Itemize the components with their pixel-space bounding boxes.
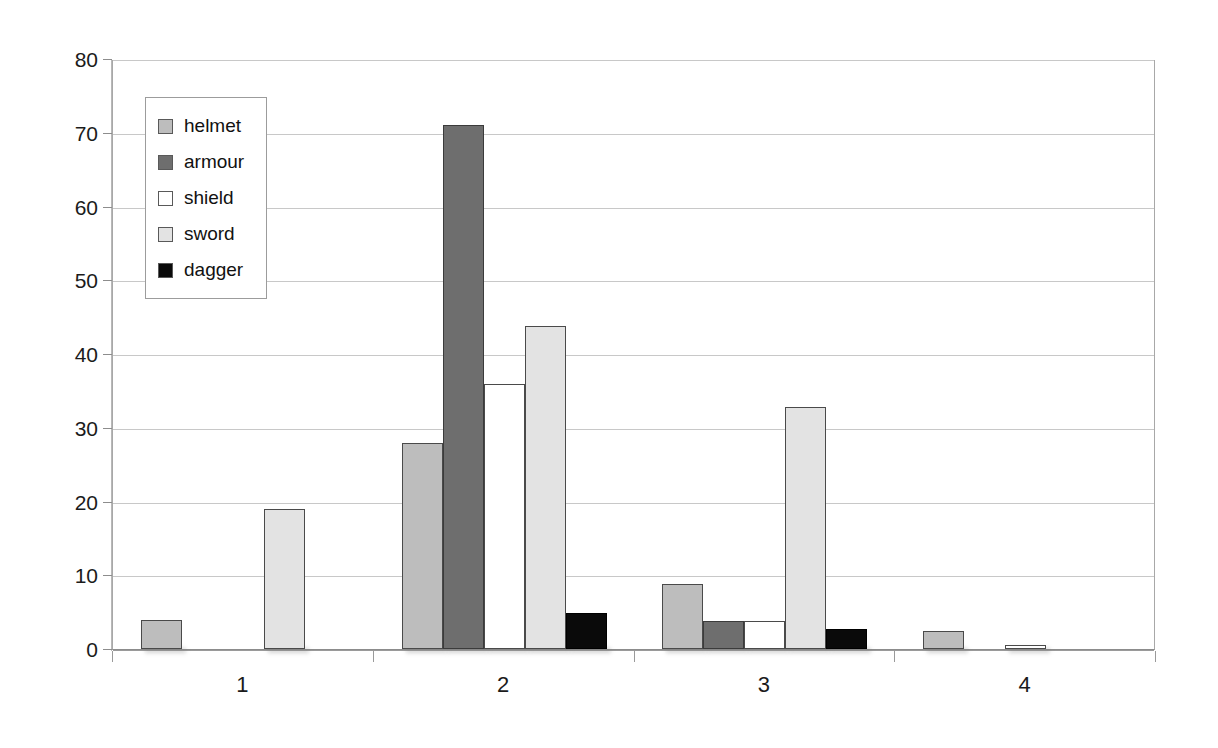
bar-shield-group-4[interactable] [1005, 645, 1046, 649]
x-tick-label-1: 1 [182, 672, 302, 698]
legend-item-sword[interactable]: sword [146, 216, 266, 252]
x-tick-mark-1 [373, 651, 374, 662]
legend-swatch-armour-icon [158, 155, 173, 170]
gridline-60 [113, 208, 1154, 209]
x-tick-label-2: 2 [443, 672, 563, 698]
gridline-50 [113, 281, 1154, 282]
y-tick-label-30: 30 [52, 418, 98, 439]
bar-chart: 01020304050607080 helmetarmourshieldswor… [0, 0, 1218, 748]
y-tick-mark-60 [103, 207, 112, 208]
y-tick-label-70: 70 [52, 123, 98, 144]
x-tick-mark-4 [1155, 651, 1156, 662]
y-tick-mark-0 [103, 649, 112, 650]
gridline-30 [113, 429, 1154, 430]
chart-legend: helmetarmourshieldsworddagger [145, 97, 267, 299]
legend-item-dagger[interactable]: dagger [146, 252, 266, 288]
bar-shield-group-3[interactable] [744, 621, 785, 649]
legend-swatch-shield-icon [158, 191, 173, 206]
bar-helmet-group-4[interactable] [923, 631, 964, 649]
legend-swatch-sword-icon [158, 227, 173, 242]
y-tick-label-0: 0 [52, 639, 98, 660]
x-tick-label-3: 3 [704, 672, 824, 698]
y-tick-mark-50 [103, 280, 112, 281]
y-tick-label-60: 60 [52, 197, 98, 218]
bar-shield-group-2[interactable] [484, 384, 525, 650]
y-axis-labels: 01020304050607080 [40, 0, 98, 748]
y-axis-line [111, 60, 112, 651]
y-tick-label-50: 50 [52, 270, 98, 291]
legend-swatch-dagger-icon [158, 263, 173, 278]
y-tick-mark-10 [103, 575, 112, 576]
legend-label-armour: armour [184, 151, 244, 173]
legend-swatch-helmet-icon [158, 119, 173, 134]
gridline-40 [113, 355, 1154, 356]
bar-sword-group-3[interactable] [785, 407, 826, 649]
gridline-70 [113, 134, 1154, 135]
bar-armour-group-2[interactable] [443, 125, 484, 649]
y-tick-mark-40 [103, 354, 112, 355]
x-tick-label-4: 4 [965, 672, 1085, 698]
gridline-80 [113, 60, 1154, 61]
legend-item-helmet[interactable]: helmet [146, 108, 266, 144]
plot-area [112, 60, 1155, 650]
bar-dagger-group-3[interactable] [826, 629, 867, 649]
y-tick-label-40: 40 [52, 344, 98, 365]
legend-item-shield[interactable]: shield [146, 180, 266, 216]
legend-label-helmet: helmet [184, 115, 241, 137]
legend-item-armour[interactable]: armour [146, 144, 266, 180]
bar-dagger-group-2[interactable] [566, 613, 607, 649]
bar-helmet-group-2[interactable] [402, 443, 443, 650]
x-tick-mark-2 [634, 651, 635, 662]
bar-armour-group-3[interactable] [703, 621, 744, 649]
legend-label-sword: sword [184, 223, 235, 245]
x-tick-mark-3 [894, 651, 895, 662]
y-tick-mark-70 [103, 133, 112, 134]
bar-helmet-group-3[interactable] [662, 584, 703, 649]
y-tick-mark-30 [103, 428, 112, 429]
y-tick-label-10: 10 [52, 565, 98, 586]
legend-label-dagger: dagger [184, 259, 243, 281]
legend-label-shield: shield [184, 187, 234, 209]
y-tick-label-20: 20 [52, 492, 98, 513]
y-tick-label-80: 80 [52, 49, 98, 70]
gridline-20 [113, 503, 1154, 504]
bar-helmet-group-1[interactable] [141, 620, 182, 650]
bar-sword-group-2[interactable] [525, 326, 566, 649]
y-tick-mark-80 [103, 59, 112, 60]
bar-sword-group-1[interactable] [264, 509, 305, 649]
x-tick-mark-0 [112, 651, 113, 662]
y-tick-mark-20 [103, 502, 112, 503]
